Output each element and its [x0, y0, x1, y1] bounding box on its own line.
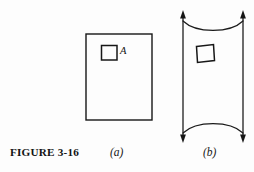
- panel-a-element-square: [102, 46, 118, 61]
- panel-a-group: [86, 34, 152, 120]
- panel-b-group: [180, 10, 246, 143]
- panel-b-arrow-down-left: [180, 135, 186, 144]
- panel-a-element-label: A: [120, 45, 126, 56]
- panel-a-outer-rectangle: [86, 34, 152, 120]
- panel-b-arrow-up-left: [180, 10, 186, 19]
- panel-label-a: (a): [110, 146, 123, 158]
- figure-caption: FIGURE 3-16: [10, 146, 79, 158]
- panel-b-element-quad: [197, 45, 215, 63]
- panel-b-arrow-up-right: [240, 10, 246, 19]
- panel-b-arrow-down-right: [240, 135, 246, 144]
- panel-label-b: (b): [203, 146, 216, 158]
- panel-b-bottom-curve: [183, 124, 243, 133]
- panel-b-top-curve: [183, 21, 243, 30]
- figure-page: A FIGURE 3-16 (a) (b): [0, 0, 254, 172]
